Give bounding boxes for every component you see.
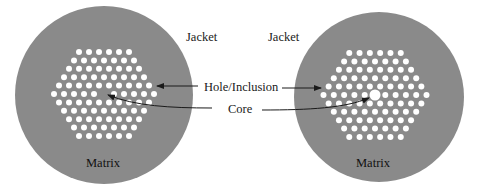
air-hole [351, 58, 357, 64]
air-hole [341, 126, 347, 132]
air-hole [96, 49, 102, 55]
air-hole [71, 91, 77, 97]
air-hole [71, 125, 77, 131]
air-hole [61, 91, 67, 97]
air-hole [86, 116, 92, 122]
air-hole [398, 50, 404, 56]
air-hole [357, 84, 363, 90]
air-hole [116, 99, 122, 105]
air-hole [116, 83, 122, 89]
air-hole [106, 116, 112, 122]
air-hole [387, 100, 393, 106]
air-hole [367, 67, 373, 73]
air-hole [331, 75, 337, 81]
air-hole [346, 117, 352, 123]
air-hole [91, 57, 97, 63]
air-hole [377, 117, 383, 123]
air-hole [362, 92, 368, 98]
air-hole [81, 125, 87, 131]
air-hole [372, 126, 378, 132]
air-hole [403, 58, 409, 64]
air-hole [413, 109, 419, 115]
air-hole [387, 50, 393, 56]
air-hole [408, 117, 414, 123]
air-hole [357, 50, 363, 56]
air-hole [403, 92, 409, 98]
air-hole [76, 49, 82, 55]
air-hole [106, 99, 112, 105]
air-hole [393, 92, 399, 98]
hole-inclusion-label: Hole/Inclusion [204, 81, 278, 94]
air-hole [131, 91, 137, 97]
air-hole [86, 66, 92, 72]
air-hole [326, 84, 332, 90]
air-hole [71, 108, 77, 114]
air-hole [131, 74, 137, 80]
air-hole [96, 83, 102, 89]
air-hole [367, 100, 373, 106]
air-hole [413, 92, 419, 98]
air-hole [111, 108, 117, 114]
air-hole [101, 108, 107, 114]
air-hole [398, 84, 404, 90]
air-hole [341, 58, 347, 64]
air-hole [56, 83, 62, 89]
air-hole [71, 57, 77, 63]
air-hole [424, 92, 430, 98]
air-hole [136, 66, 142, 72]
air-hole [367, 84, 373, 90]
air-hole [76, 116, 82, 122]
air-hole [66, 66, 72, 72]
matrix-label-right: Matrix [356, 157, 390, 170]
jacket-label-left: Jacket [186, 31, 217, 44]
air-hole [81, 91, 87, 97]
air-hole [66, 116, 72, 122]
air-hole [393, 58, 399, 64]
air-hole [66, 99, 72, 105]
air-hole [346, 50, 352, 56]
air-hole [326, 100, 332, 106]
jacket-label-right: Jacket [268, 31, 299, 44]
air-hole [382, 58, 388, 64]
air-hole [91, 91, 97, 97]
air-hole [116, 66, 122, 72]
air-hole [121, 108, 127, 114]
air-hole [91, 125, 97, 131]
air-hole [126, 83, 132, 89]
air-hole [418, 84, 424, 90]
air-hole [146, 83, 152, 89]
air-hole [382, 109, 388, 115]
air-hole [387, 117, 393, 123]
air-hole [96, 116, 102, 122]
air-hole [387, 134, 393, 140]
air-hole [341, 109, 347, 115]
air-hole [86, 133, 92, 139]
air-hole [341, 92, 347, 98]
air-hole [413, 75, 419, 81]
air-hole [377, 67, 383, 73]
air-hole [351, 109, 357, 115]
air-hole [382, 75, 388, 81]
air-hole [398, 117, 404, 123]
air-hole [367, 117, 373, 123]
air-hole [387, 67, 393, 73]
air-hole [362, 58, 368, 64]
air-hole [398, 67, 404, 73]
air-hole [403, 109, 409, 115]
air-hole [136, 99, 142, 105]
air-hole [408, 67, 414, 73]
air-hole [377, 50, 383, 56]
air-hole [393, 109, 399, 115]
air-hole [403, 75, 409, 81]
air-hole [66, 83, 72, 89]
air-hole [126, 133, 132, 139]
air-hole [106, 49, 112, 55]
air-hole [81, 108, 87, 114]
air-hole [403, 126, 409, 132]
air-hole [398, 100, 404, 106]
air-hole [372, 109, 378, 115]
air-hole [81, 74, 87, 80]
air-hole [151, 91, 157, 97]
air-hole [331, 109, 337, 115]
air-hole [81, 57, 87, 63]
